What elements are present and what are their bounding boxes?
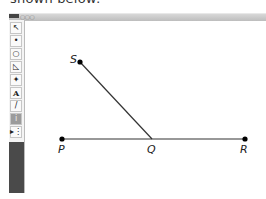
label-P: P [58,143,65,156]
point-S[interactable] [77,59,82,64]
sketch-canvas[interactable] [0,0,266,199]
label-R: R [240,143,248,156]
segment-SQ[interactable] [80,62,152,139]
label-S: S [70,53,77,66]
label-Q: Q [147,143,156,156]
point-P[interactable] [59,136,64,141]
point-R[interactable] [242,136,247,141]
